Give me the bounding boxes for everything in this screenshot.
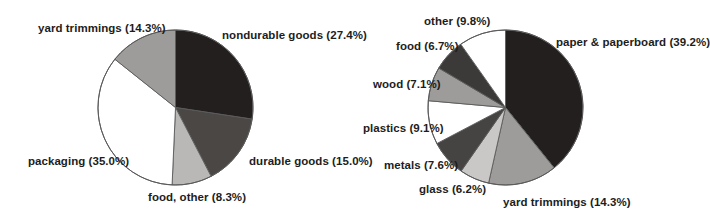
right-label-wood: wood (7.1%) [373,78,441,91]
left-label-packaging: packaging (35.0%) [28,155,129,168]
left-label-yard-trimmings: yard trimmings (14.3%) [38,22,166,35]
right-label-yard-trimmings: yard trimmings (14.3%) [503,196,631,209]
right-label-paper-paperboard: paper & paperboard (39.2%) [556,36,710,49]
right-label-other: other (9.8%) [424,15,490,28]
pie-slice [176,30,253,119]
right-label-glass: glass (6.2%) [419,183,486,196]
left-label-nondurable-goods: nondurable goods (27.4%) [222,29,367,42]
right-label-metals: metals (7.6%) [384,159,458,172]
right-label-food: food (6.7%) [396,40,459,53]
right-label-plastics: plastics (9.1%) [363,122,444,135]
left-label-durable-goods: durable goods (15.0%) [249,155,373,168]
left-label-food-other: food, other (8.3%) [148,191,246,204]
